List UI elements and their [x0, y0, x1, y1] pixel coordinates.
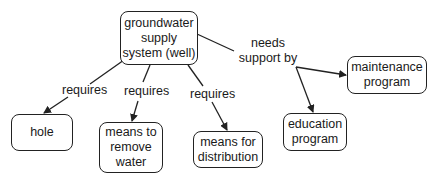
node-groundwater-supply-system: groundwater supply system (well)	[120, 11, 198, 65]
link-label-requires-remove: requires	[124, 84, 168, 99]
node-education-program: education program	[283, 113, 347, 151]
node-hole: hole	[11, 114, 73, 151]
node-maintenance-program: maintenance program	[347, 56, 427, 94]
link-label-needs-support-by: needs support by	[234, 36, 302, 66]
link-label-requires-distribution: requires	[190, 87, 234, 102]
node-means-for-distribution: means for distribution	[193, 131, 263, 168]
link-label-requires-hole: requires	[62, 83, 106, 98]
node-means-to-remove-water: means to remove water	[99, 122, 163, 173]
